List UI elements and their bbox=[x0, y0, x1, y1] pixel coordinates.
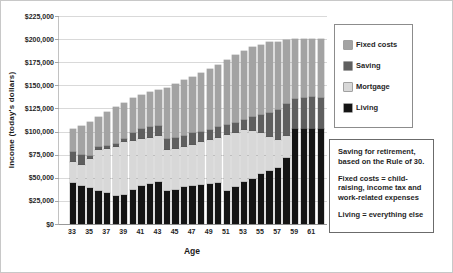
segment-fixed-costs bbox=[121, 103, 127, 139]
segment-mortgage bbox=[198, 142, 204, 185]
segment-living bbox=[249, 179, 255, 224]
chart-legend: Fixed costsSavingMortgageLiving bbox=[334, 24, 413, 128]
segment-living bbox=[78, 186, 84, 224]
bar-age-50 bbox=[215, 65, 221, 224]
segment-mortgage bbox=[147, 138, 153, 185]
segment-fixed-costs bbox=[241, 51, 247, 119]
segment-fixed-costs bbox=[113, 107, 119, 144]
segment-mortgage bbox=[87, 159, 93, 189]
segment-fixed-costs bbox=[87, 122, 93, 156]
bar-age-33 bbox=[70, 129, 76, 224]
segment-saving bbox=[318, 98, 324, 129]
y-tick-label: $25,000 bbox=[29, 197, 54, 204]
segment-mortgage bbox=[113, 147, 119, 196]
bar-age-56 bbox=[266, 42, 272, 224]
bar-age-58 bbox=[283, 40, 289, 224]
x-tick-label: 39 bbox=[119, 228, 127, 235]
segment-fixed-costs bbox=[147, 92, 153, 127]
annotation-box: Saving for retirement, based on the Rule… bbox=[329, 139, 434, 233]
segment-saving bbox=[130, 133, 136, 141]
retirement-income-chart: Income (today's dollars) $225,000$200,00… bbox=[0, 0, 453, 273]
segment-mortgage bbox=[207, 140, 213, 184]
x-axis-title: Age bbox=[184, 246, 200, 256]
x-tick-label: 59 bbox=[290, 228, 298, 235]
segment-living bbox=[113, 196, 119, 224]
segment-living bbox=[283, 158, 289, 224]
y-tick-label: $175,000 bbox=[25, 59, 54, 66]
segment-saving bbox=[301, 98, 307, 129]
legend-label: Saving bbox=[356, 61, 381, 70]
segment-living bbox=[189, 186, 195, 224]
y-tick-mark bbox=[55, 155, 59, 156]
segment-mortgage bbox=[95, 150, 101, 192]
segment-living bbox=[309, 129, 315, 224]
bar-age-53 bbox=[241, 51, 247, 224]
x-tick-label: 35 bbox=[85, 228, 93, 235]
bar-age-42 bbox=[147, 92, 153, 224]
segment-living bbox=[224, 191, 230, 224]
segment-saving bbox=[283, 104, 289, 136]
segment-mortgage bbox=[138, 139, 144, 186]
segment-living bbox=[70, 183, 76, 224]
segment-living bbox=[318, 129, 324, 224]
segment-living bbox=[258, 174, 264, 224]
bar-age-45 bbox=[172, 84, 178, 224]
y-tick-mark bbox=[55, 62, 59, 63]
y-tick-label: $0 bbox=[46, 221, 54, 228]
segment-saving bbox=[198, 132, 204, 142]
segment-fixed-costs bbox=[198, 73, 204, 132]
segment-mortgage bbox=[232, 133, 238, 187]
segment-mortgage bbox=[266, 137, 272, 171]
legend-label: Mortgage bbox=[356, 82, 390, 91]
segment-fixed-costs bbox=[70, 129, 76, 153]
y-tick-mark bbox=[55, 201, 59, 202]
segment-saving bbox=[164, 139, 170, 150]
segment-mortgage bbox=[70, 162, 76, 183]
segment-mortgage bbox=[224, 135, 230, 190]
bar-age-43 bbox=[155, 90, 161, 224]
bar-age-54 bbox=[249, 47, 255, 224]
bar-age-51 bbox=[224, 60, 230, 225]
bar-age-44 bbox=[164, 88, 170, 224]
segment-living bbox=[121, 195, 127, 224]
y-tick-mark bbox=[55, 85, 59, 86]
x-tick-label: 33 bbox=[68, 228, 76, 235]
segment-living bbox=[292, 129, 298, 224]
y-tick-mark bbox=[55, 39, 59, 40]
bar-age-62 bbox=[318, 39, 324, 224]
annotation-paragraph: Fixed costs = child-raising, income tax … bbox=[338, 174, 428, 203]
segment-saving bbox=[147, 127, 153, 137]
segment-fixed-costs bbox=[189, 77, 195, 134]
y-tick-label: $225,000 bbox=[25, 13, 54, 20]
segment-mortgage bbox=[130, 141, 136, 190]
segment-living bbox=[164, 191, 170, 224]
bar-age-47 bbox=[189, 77, 195, 224]
segment-fixed-costs bbox=[301, 39, 307, 98]
segment-saving bbox=[249, 117, 255, 130]
segment-saving bbox=[309, 97, 315, 128]
segment-fixed-costs bbox=[155, 90, 161, 126]
segment-fixed-costs bbox=[283, 40, 289, 104]
x-tick-label: 61 bbox=[307, 228, 315, 235]
segment-fixed-costs bbox=[215, 65, 221, 128]
bar-age-52 bbox=[232, 55, 238, 224]
bar-age-60 bbox=[301, 39, 307, 224]
segment-saving bbox=[189, 133, 195, 144]
bar-age-34 bbox=[78, 126, 84, 224]
segment-saving bbox=[224, 125, 230, 135]
segment-mortgage bbox=[249, 131, 255, 180]
segment-saving bbox=[138, 129, 144, 139]
segment-fixed-costs bbox=[309, 39, 315, 98]
segment-fixed-costs bbox=[104, 112, 110, 146]
y-tick-mark bbox=[55, 16, 59, 17]
segment-fixed-costs bbox=[266, 42, 272, 113]
bar-age-46 bbox=[181, 80, 187, 224]
segment-mortgage bbox=[189, 145, 195, 187]
legend-item-saving: Saving bbox=[344, 61, 410, 70]
segment-saving bbox=[292, 99, 298, 130]
x-tick-label: 55 bbox=[256, 228, 264, 235]
bar-age-59 bbox=[292, 39, 298, 224]
segment-living bbox=[275, 168, 281, 224]
segment-fixed-costs bbox=[275, 42, 281, 110]
segment-saving bbox=[266, 113, 272, 137]
